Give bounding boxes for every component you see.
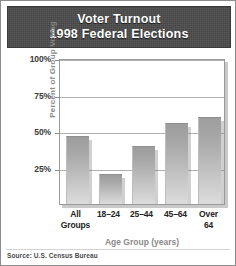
y-axis-title: Percent of Group Voting [48, 10, 57, 130]
x-axis-tick-label-line-1: 25–44 [125, 209, 158, 220]
x-axis-tick-label-line-1: Over [192, 209, 225, 220]
chart-figure: Voter Turnout 1998 Federal Elections Per… [0, 0, 236, 266]
x-axis-tick-label-line-2: Groups [59, 220, 92, 231]
bars-layer [60, 60, 224, 204]
x-axis-tick-label: 45–64 [159, 209, 192, 220]
x-axis-tick-label-line-2: 64 [192, 220, 225, 231]
x-axis-tick-label-line-1: 45–64 [159, 209, 192, 220]
x-axis-tick-labels: AllGroups18–2425–4445–64Over64 [59, 209, 225, 235]
y-axis-tick-label: 75% [11, 91, 51, 101]
bar [198, 117, 221, 204]
footer-divider [6, 249, 230, 250]
x-axis-tick-label: AllGroups [59, 209, 92, 230]
chart-title-line-1: Voter Turnout [77, 12, 160, 27]
y-axis-tick-label: 50% [11, 127, 51, 137]
x-axis-title: Age Group (years) [59, 237, 225, 247]
y-axis-tick-label: 100% [11, 54, 51, 64]
source-note: Source: U.S. Census Bureau [7, 252, 98, 259]
x-axis-tick-label: 18–24 [92, 209, 125, 220]
x-axis-tick-label-line-1: All [59, 209, 92, 220]
x-axis-tick-label-line-1: 18–24 [92, 209, 125, 220]
y-axis-tick-label: 25% [11, 164, 51, 174]
bar [99, 174, 122, 204]
bar [165, 123, 188, 204]
x-axis-tick-label: 25–44 [125, 209, 158, 220]
bar [132, 146, 155, 204]
bar [66, 136, 89, 204]
plot-area [59, 59, 225, 205]
chart-title-line-2: 1998 Federal Elections [49, 27, 188, 42]
chart-title-banner: Voter Turnout 1998 Federal Elections [7, 6, 231, 48]
x-axis-tick-label: Over64 [192, 209, 225, 230]
